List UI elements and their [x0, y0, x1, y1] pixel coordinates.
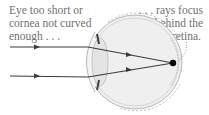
focal-point-icon — [170, 60, 176, 66]
eye-diagram — [0, 0, 209, 115]
lens-icon — [92, 38, 108, 86]
